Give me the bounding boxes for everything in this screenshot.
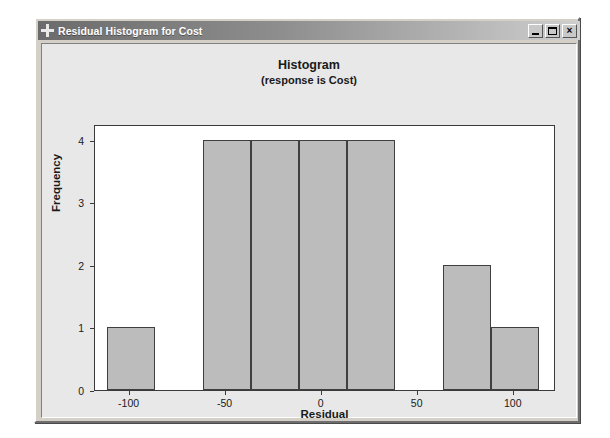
window-titlebar[interactable]: Residual Histogram for Cost × <box>38 21 580 40</box>
plot-area <box>94 125 555 391</box>
close-icon: × <box>563 25 576 37</box>
histogram-bar <box>299 140 347 390</box>
x-tick-mark <box>513 391 514 395</box>
chart-subtitle: (response is Cost) <box>42 73 576 88</box>
histogram-bar <box>203 140 251 390</box>
x-tick-mark <box>321 391 322 395</box>
histogram-bar <box>443 265 491 390</box>
close-button[interactable]: × <box>562 24 577 38</box>
histogram-bar <box>251 140 299 390</box>
window-title: Residual Histogram for Cost <box>58 25 202 37</box>
histogram-bar <box>491 327 539 390</box>
y-tick-label: 2 <box>62 261 84 271</box>
y-tick-label: 1 <box>62 323 84 333</box>
chart-title: Histogram <box>42 58 576 73</box>
x-tick-mark <box>225 391 226 395</box>
y-tick-label: 4 <box>62 136 84 146</box>
minimize-icon <box>532 33 539 35</box>
window-controls: × <box>528 24 577 38</box>
plus-crosshair-icon <box>41 24 54 37</box>
chart-title-block: Histogram (response is Cost) <box>42 58 576 88</box>
x-tick-mark <box>417 391 418 395</box>
histogram-bars <box>95 126 554 390</box>
x-axis-label: Residual <box>94 408 555 420</box>
y-axis-label: Frequency <box>50 154 62 212</box>
y-tick-label: 3 <box>62 198 84 208</box>
y-tick-mark <box>90 391 94 392</box>
histogram-bar <box>107 327 155 390</box>
maximize-icon <box>548 27 557 35</box>
minimize-button[interactable] <box>528 24 543 38</box>
x-tick-mark <box>129 391 130 395</box>
maximize-button[interactable] <box>545 24 560 38</box>
chart-client-area: Histogram (response is Cost) Frequency 0… <box>41 43 577 418</box>
chart-window: Residual Histogram for Cost × Histogram … <box>34 17 580 423</box>
y-tick-label: 0 <box>62 386 84 396</box>
histogram-bar <box>347 140 395 390</box>
